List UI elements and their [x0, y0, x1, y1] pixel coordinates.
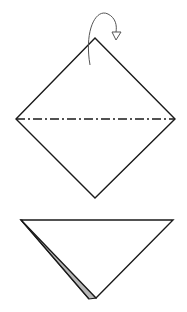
diagram-canvas	[0, 0, 187, 312]
step-folded-triangle	[21, 220, 173, 299]
paper-triangle	[21, 220, 173, 298]
arrowhead-icon	[112, 32, 121, 40]
paper-square	[16, 38, 175, 198]
step-square-valley-fold	[16, 13, 175, 198]
origami-diagram	[0, 0, 187, 312]
